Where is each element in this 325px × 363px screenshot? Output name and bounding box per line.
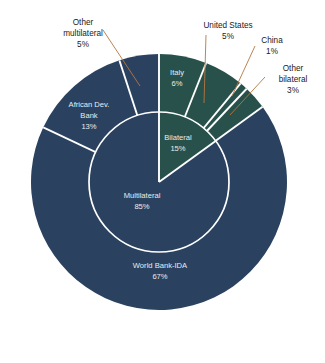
callout-china-pct: 1% bbox=[266, 47, 278, 56]
callout-other-multilateral-line1: Other bbox=[73, 18, 94, 27]
label-bilateral-pct: 15% bbox=[170, 144, 185, 153]
label-multilateral-pct: 85% bbox=[134, 202, 149, 211]
callout-china-line1: China bbox=[261, 36, 283, 45]
callout-united-states-line1: United States bbox=[203, 21, 252, 30]
label-african-dev-bank-line2: Bank bbox=[80, 111, 98, 120]
label-world-bank-ida-pct: 67% bbox=[152, 272, 167, 281]
callout-other-multilateral-pct: 5% bbox=[77, 40, 89, 49]
pie-chart-container: Italy 6% Bilateral 15% Multilateral 85% … bbox=[0, 0, 325, 363]
label-multilateral-name: Multilateral bbox=[124, 191, 161, 200]
label-italy-name: Italy bbox=[170, 68, 184, 77]
label-italy-pct: 6% bbox=[172, 79, 183, 88]
label-world-bank-ida-name: World Bank-IDA bbox=[133, 261, 188, 270]
callout-united-states-pct: 5% bbox=[222, 32, 234, 41]
label-african-dev-bank-line1: African Dev. bbox=[69, 100, 110, 109]
label-african-dev-bank-pct: 13% bbox=[81, 122, 96, 131]
label-bilateral-name: Bilateral bbox=[164, 133, 192, 142]
nested-donut-chart: Italy 6% Bilateral 15% Multilateral 85% … bbox=[0, 0, 325, 363]
callout-other-bilateral-line1: Other bbox=[283, 64, 304, 73]
callout-other-multilateral-line2: multilateral bbox=[63, 29, 103, 38]
callout-other-bilateral-line2: bilateral bbox=[279, 75, 308, 84]
callout-other-bilateral-pct: 3% bbox=[287, 86, 299, 95]
